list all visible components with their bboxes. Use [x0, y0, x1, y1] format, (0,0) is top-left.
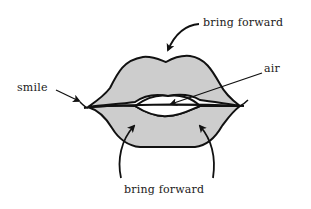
top-arrow-icon [168, 24, 199, 50]
smile-arrow-icon [56, 90, 79, 101]
label-bottom-bring-forward: bring forward [124, 184, 204, 195]
label-top-bring-forward: bring forward [203, 17, 283, 28]
label-smile: smile [17, 82, 48, 93]
label-air: air [264, 63, 280, 74]
lips-diagram [0, 0, 311, 209]
